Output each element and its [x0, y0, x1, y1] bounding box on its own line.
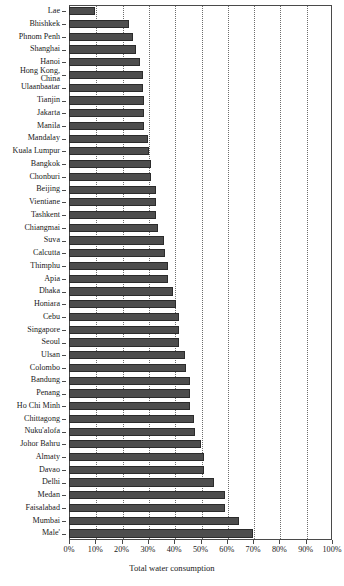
bar — [69, 236, 164, 244]
bar-row — [69, 120, 332, 133]
y-axis-label: Mumbai — [33, 517, 60, 526]
y-axis-label: Thimphu — [30, 262, 60, 271]
y-axis-label: Apia — [44, 275, 60, 284]
bar-row — [69, 527, 332, 540]
y-axis-tick — [62, 37, 66, 38]
y-axis-tick — [62, 457, 66, 458]
bar — [69, 415, 194, 423]
y-axis-tick — [62, 266, 66, 267]
y-axis-tick — [62, 151, 66, 152]
bar — [69, 33, 133, 41]
y-axis-label: Calcutta — [33, 249, 60, 258]
bar-row — [69, 69, 332, 82]
y-axis-label: Delhi — [42, 478, 60, 487]
x-axis-tick — [148, 540, 149, 544]
bar-row — [69, 311, 332, 324]
bar — [69, 249, 165, 257]
bar-row — [69, 132, 332, 145]
bar — [69, 275, 168, 283]
y-axis-label: Phnom Penh — [19, 33, 60, 42]
y-axis-tick — [62, 24, 66, 25]
bar-row — [69, 464, 332, 477]
x-axis-tick — [332, 540, 333, 544]
y-axis-tick — [62, 279, 66, 280]
bar-row — [69, 107, 332, 120]
bar-row — [69, 489, 332, 502]
bar — [69, 109, 144, 117]
bar-row — [69, 298, 332, 311]
y-axis-tick — [62, 292, 66, 293]
y-axis-tick — [62, 304, 66, 305]
y-axis-label: Mandalay — [28, 134, 60, 143]
y-axis-tick — [62, 164, 66, 165]
y-axis-tick — [62, 343, 66, 344]
bar-row — [69, 56, 332, 69]
y-axis-label: Nuku'alofa — [24, 427, 60, 436]
bar — [69, 84, 143, 92]
y-axis-label: Ulsan — [41, 351, 60, 360]
bar-row — [69, 285, 332, 298]
bar — [69, 224, 158, 232]
bar — [69, 20, 129, 28]
bar — [69, 338, 179, 346]
bars-layer — [69, 5, 332, 540]
x-axis-tick — [201, 540, 202, 544]
y-axis-label: Bhishkek — [29, 20, 60, 29]
bar — [69, 453, 204, 461]
y-axis-tick — [62, 215, 66, 216]
bar-row — [69, 234, 332, 247]
x-axis-tick — [69, 540, 70, 544]
bar-row — [69, 336, 332, 349]
y-axis-tick — [62, 177, 66, 178]
y-axis-label: Suva — [44, 236, 60, 245]
y-axis-label: Manila — [37, 122, 60, 131]
x-axis-tick — [122, 540, 123, 544]
y-axis-label: Shanghai — [30, 45, 60, 54]
bar — [69, 198, 156, 206]
y-axis-tick — [62, 521, 66, 522]
bar — [69, 287, 173, 295]
bar — [69, 313, 179, 321]
y-axis-tick — [62, 470, 66, 471]
y-axis-tick — [62, 368, 66, 369]
bar — [69, 147, 149, 155]
bar — [69, 71, 143, 79]
bar-row — [69, 158, 332, 171]
bar-row — [69, 400, 332, 413]
bar-row — [69, 374, 332, 387]
y-axis-label: Faisalabad — [25, 504, 60, 513]
y-axis-tick — [62, 381, 66, 382]
bar-row — [69, 145, 332, 158]
y-axis-label: Colombo — [30, 364, 60, 373]
y-axis-tick — [62, 394, 66, 395]
bar-row — [69, 425, 332, 438]
bar-row — [69, 451, 332, 464]
bar — [69, 186, 156, 194]
y-axis-tick — [62, 406, 66, 407]
bar — [69, 211, 156, 219]
y-axis-label: Dhaka — [39, 287, 60, 296]
y-axis-tick — [62, 139, 66, 140]
bar-row — [69, 43, 332, 56]
y-axis-label: Penang — [36, 389, 60, 398]
bar — [69, 45, 136, 53]
y-axis-label: Kuala Lumpur — [13, 147, 60, 156]
bar — [69, 466, 204, 474]
y-axis-tick — [62, 534, 66, 535]
y-axis-label: Bandung — [31, 376, 60, 385]
x-axis-tick — [253, 540, 254, 544]
bar-row — [69, 222, 332, 235]
bar — [69, 96, 144, 104]
bar-row — [69, 362, 332, 375]
y-axis-label: Almaty — [36, 453, 60, 462]
y-axis-label: Davao — [39, 466, 60, 475]
y-axis-label: Johor Bahru — [20, 440, 60, 449]
y-axis-label: Hanoi — [40, 58, 60, 67]
bar-row — [69, 171, 332, 184]
y-axis-tick — [62, 202, 66, 203]
bar — [69, 58, 140, 66]
bar — [69, 7, 95, 15]
bar-row — [69, 196, 332, 209]
y-axis-label: Male' — [42, 529, 60, 538]
y-axis-label: Beijing — [36, 185, 60, 194]
